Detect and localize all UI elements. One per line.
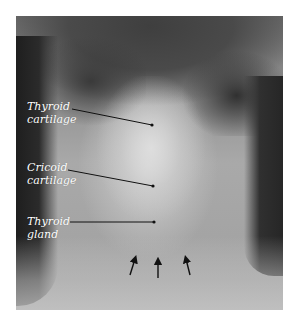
label-line-1: Thyroid — [27, 100, 77, 113]
label-line-2: cartilage — [27, 113, 77, 126]
label-line-1: Thyroid — [27, 215, 70, 228]
leader-line-thyroid-gland — [70, 220, 156, 223]
arrow-icon-right — [186, 259, 190, 275]
label-line-2: cartilage — [27, 174, 77, 187]
label-thyroid-gland: Thyroid gland — [27, 215, 70, 241]
label-line-2: gland — [27, 228, 70, 241]
leader-line-thyroid-cartilage — [72, 109, 154, 127]
label-cricoid-cartilage: Cricoid cartilage — [27, 161, 77, 187]
leader-line-cricoid-cartilage — [68, 170, 155, 188]
label-line-1: Cricoid — [27, 161, 77, 174]
label-thyroid-cartilage: Thyroid cartilage — [27, 100, 77, 126]
arrow-icon-left — [130, 259, 135, 275]
